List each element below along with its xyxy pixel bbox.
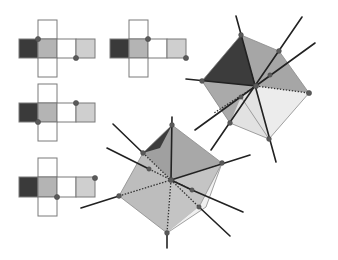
vertex-marker	[170, 123, 175, 128]
net-square-medium	[38, 103, 57, 122]
net-square-light	[167, 39, 186, 58]
net-square-medium	[38, 177, 57, 197]
axis-line	[81, 196, 119, 208]
vertex-marker	[145, 36, 150, 41]
vertex-marker	[228, 121, 233, 126]
diagram-svg	[0, 0, 338, 260]
vertex-marker	[200, 79, 205, 84]
vertex-marker	[239, 95, 243, 99]
cube-net-top-left	[19, 20, 95, 77]
net-square-white	[57, 39, 76, 58]
vertex-marker	[73, 100, 78, 105]
vertex-marker	[73, 55, 78, 60]
net-square-medium	[38, 39, 57, 58]
vertex-marker	[268, 73, 272, 77]
vertex-marker	[183, 55, 188, 60]
net-square-white	[148, 39, 167, 58]
net-square-dark	[19, 177, 38, 197]
vertex-marker	[35, 36, 40, 41]
net-square-top	[38, 158, 57, 177]
net-square-dark	[110, 39, 129, 58]
cube-3d-right	[186, 16, 317, 162]
net-square-bottom	[38, 58, 57, 77]
net-square-light	[76, 39, 95, 58]
cube-center-point	[168, 177, 173, 182]
net-square-white	[57, 103, 76, 122]
net-square-dark	[19, 103, 38, 122]
net-square-bottom	[38, 197, 57, 216]
net-square-dark	[19, 39, 38, 58]
vertex-marker	[147, 167, 151, 171]
vertex-marker	[306, 90, 311, 95]
cube-center-point	[253, 83, 258, 88]
axis-line	[199, 207, 230, 236]
axis-line	[113, 124, 143, 153]
net-square-light	[76, 103, 95, 122]
net-square-top	[129, 20, 148, 39]
vertex-marker	[54, 194, 59, 199]
net-square-bottom	[129, 58, 148, 77]
net-square-light	[76, 177, 95, 197]
vertex-marker	[197, 205, 201, 209]
vertex-marker	[277, 49, 282, 54]
net-square-top	[38, 20, 57, 39]
cube-net-middle-left	[19, 84, 95, 141]
cube-3d-left	[81, 117, 250, 248]
net-square-white	[57, 177, 76, 197]
vertex-marker	[92, 175, 97, 180]
net-square-bottom	[38, 122, 57, 141]
vertex-marker	[190, 188, 194, 192]
vertex-marker	[267, 137, 272, 142]
diagram-canvas	[0, 0, 338, 260]
vertex-marker	[165, 231, 170, 236]
net-square-top	[38, 84, 57, 103]
vertex-marker	[220, 161, 225, 166]
vertex-marker	[141, 151, 146, 156]
cube-net-top-right	[110, 20, 189, 77]
vertex-marker	[117, 194, 122, 199]
net-square-medium	[129, 39, 148, 58]
vertex-marker	[35, 119, 40, 124]
vertex-marker	[239, 33, 244, 38]
